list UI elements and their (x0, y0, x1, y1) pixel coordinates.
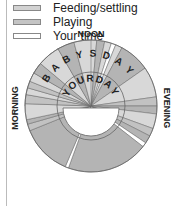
morning-label: MORNING (10, 86, 20, 130)
ring-letter: S (89, 48, 96, 59)
day-clock-diagram: BABYSDAY YOURDAY NOON MORNING EVENING (0, 0, 180, 206)
day-segments (25, 40, 157, 172)
noon-label: NOON (78, 29, 105, 39)
ring-letter: R (86, 73, 94, 84)
evening-label: EVENING (162, 88, 172, 129)
